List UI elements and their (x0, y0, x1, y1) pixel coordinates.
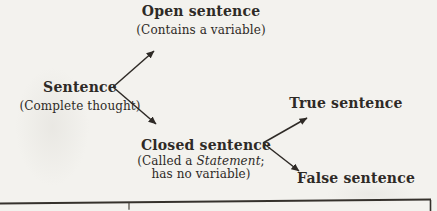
arrow-sentence-to-closed-sentence (113, 87, 156, 124)
arrow-closed-to-false-sentence (263, 143, 299, 171)
diagram-arrows (0, 0, 437, 211)
scanned-diagram-page: Open sentence (Contains a variable) Sent… (0, 0, 437, 211)
arrow-closed-to-true-sentence (263, 118, 307, 143)
arrow-sentence-to-open-sentence (113, 51, 154, 87)
table-top-border (0, 200, 431, 204)
